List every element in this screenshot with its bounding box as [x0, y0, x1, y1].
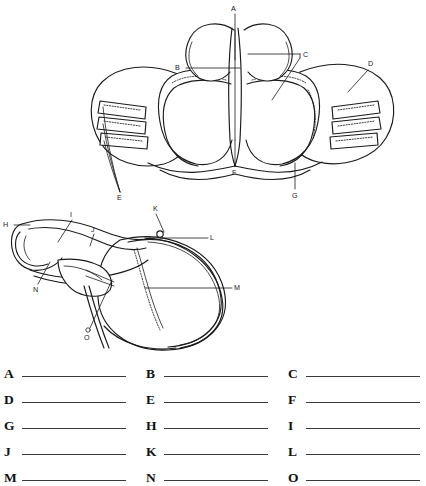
figure-label-F: F	[232, 168, 237, 177]
answer-blank-a[interactable]	[22, 376, 126, 377]
figure-label-N: N	[33, 285, 38, 294]
right-billet-straps	[330, 101, 381, 149]
figure-label-G: G	[292, 191, 298, 200]
figure-label-I: I	[70, 210, 72, 219]
pommel-stud	[157, 231, 163, 237]
answer-letter-j: J	[0, 445, 22, 459]
answer-blank-e[interactable]	[164, 402, 268, 403]
answer-blank-c[interactable]	[306, 376, 420, 377]
answer-grid: A B C D E F	[0, 355, 426, 486]
answer-cell-k[interactable]: K	[142, 445, 284, 459]
answer-letter-o: O	[284, 471, 306, 485]
leader-O-dot	[86, 328, 90, 332]
answer-cell-o[interactable]: O	[284, 471, 426, 485]
answer-cell-c[interactable]: C	[284, 367, 426, 381]
answer-row: J K L	[0, 433, 426, 458]
figure-label-A: A	[231, 4, 236, 13]
saddle-front-view-figure: A B C D E F G	[0, 0, 426, 205]
answer-cell-e[interactable]: E	[142, 393, 284, 407]
answer-blank-f[interactable]	[306, 402, 420, 403]
answer-blank-m[interactable]	[22, 480, 126, 481]
answer-letter-c: C	[284, 367, 306, 381]
figure-label-D: D	[368, 59, 373, 68]
answer-cell-f[interactable]: F	[284, 393, 426, 407]
answer-blank-b[interactable]	[164, 376, 268, 377]
figure-label-M: M	[234, 283, 240, 292]
answer-cell-a[interactable]: A	[0, 367, 142, 381]
left-knee-roll	[186, 24, 234, 81]
figure-label-J: J	[91, 225, 95, 234]
figure-label-K: K	[153, 204, 158, 213]
answer-blank-g[interactable]	[22, 428, 126, 429]
answer-cell-d[interactable]: D	[0, 393, 142, 407]
right-knee-roll	[244, 24, 292, 81]
seat-top-line	[22, 220, 150, 240]
answer-row: A B C	[0, 355, 426, 380]
saddle-side-view-figure: H I J K L M N O	[0, 198, 280, 353]
figure-label-L: L	[210, 233, 214, 242]
answer-blank-l[interactable]	[306, 454, 420, 455]
answer-cell-g[interactable]: G	[0, 419, 142, 433]
answer-blank-i[interactable]	[306, 428, 420, 429]
answer-letter-d: D	[0, 393, 22, 407]
cantle	[11, 224, 62, 270]
answer-blank-k[interactable]	[164, 454, 268, 455]
answer-letter-g: G	[0, 419, 22, 433]
answer-cell-j[interactable]: J	[0, 445, 142, 459]
answer-letter-e: E	[142, 393, 164, 407]
answer-row: G H I	[0, 407, 426, 432]
answer-letter-n: N	[142, 471, 164, 485]
answer-letter-a: A	[0, 367, 22, 381]
answer-cell-l[interactable]: L	[284, 445, 426, 459]
gullet-right-edge	[235, 28, 241, 166]
answer-letter-f: F	[284, 393, 306, 407]
answer-row: M N O	[0, 459, 426, 484]
worksheet-page: A B C D E F G	[0, 0, 426, 486]
leader-J	[90, 234, 94, 246]
figure-label-H: H	[3, 220, 8, 229]
answer-cell-i[interactable]: I	[284, 419, 426, 433]
answer-blank-n[interactable]	[164, 480, 268, 481]
figure-label-B: B	[175, 63, 180, 72]
answer-blank-h[interactable]	[164, 428, 268, 429]
answer-letter-h: H	[142, 419, 164, 433]
answer-letter-i: I	[284, 419, 306, 433]
answer-letter-l: L	[284, 445, 306, 459]
answer-cell-n[interactable]: N	[142, 471, 284, 485]
answer-row: D E F	[0, 381, 426, 406]
leader-K	[156, 214, 164, 232]
answer-cell-h[interactable]: H	[142, 419, 284, 433]
figure-label-C: C	[303, 50, 308, 59]
answer-blank-o[interactable]	[306, 480, 420, 481]
answer-cell-m[interactable]: M	[0, 471, 142, 485]
answer-blank-j[interactable]	[22, 454, 126, 455]
answer-letter-b: B	[142, 367, 164, 381]
answer-blank-d[interactable]	[22, 402, 126, 403]
left-billet-straps	[97, 101, 148, 149]
figure-label-O: O	[84, 333, 90, 342]
answer-letter-k: K	[142, 445, 164, 459]
answer-cell-b[interactable]: B	[142, 367, 284, 381]
answer-letter-m: M	[0, 471, 22, 485]
